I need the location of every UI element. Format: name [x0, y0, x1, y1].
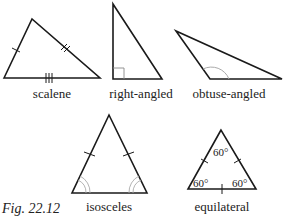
obtuse-angled-triangle — [176, 31, 282, 79]
isosceles-triangle — [72, 115, 147, 193]
label-right-angled: right-angled — [109, 86, 173, 102]
label-equilateral: equilateral — [195, 199, 250, 215]
scalene-triangle — [4, 19, 100, 78]
triangle-types-diagram: 60° 60° 60° — [0, 0, 284, 216]
label-obtuse-angled: obtuse-angled — [193, 86, 266, 102]
equilateral-top-angle: 60° — [213, 146, 228, 158]
equilateral-right-angle: 60° — [232, 177, 247, 189]
equilateral-left-angle: 60° — [193, 177, 208, 189]
label-isosceles: isosceles — [86, 199, 132, 215]
label-scalene: scalene — [33, 86, 71, 102]
figure-caption: Fig. 22.12 — [2, 201, 60, 216]
